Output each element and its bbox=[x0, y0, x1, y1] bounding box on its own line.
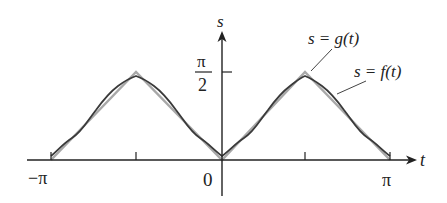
x-axis-label: t bbox=[420, 150, 426, 170]
leader-g bbox=[311, 49, 332, 71]
curve-g bbox=[51, 72, 390, 160]
label-half-pi-den: 2 bbox=[198, 75, 207, 95]
annotation-f: s = f(t) bbox=[354, 62, 402, 81]
curve-f bbox=[51, 76, 390, 156]
y-axis-label: s bbox=[217, 12, 224, 31]
label-neg-pi: −π bbox=[28, 168, 47, 188]
label-pi: π bbox=[382, 170, 391, 190]
label-zero: 0 bbox=[203, 169, 213, 190]
leader-f bbox=[337, 81, 366, 94]
annotation-g: s = g(t) bbox=[308, 29, 359, 48]
plot-canvas: −π 0 π π 2 s t s = g(t) s = f(t) bbox=[0, 0, 447, 203]
label-half-pi-num: π bbox=[197, 52, 206, 71]
